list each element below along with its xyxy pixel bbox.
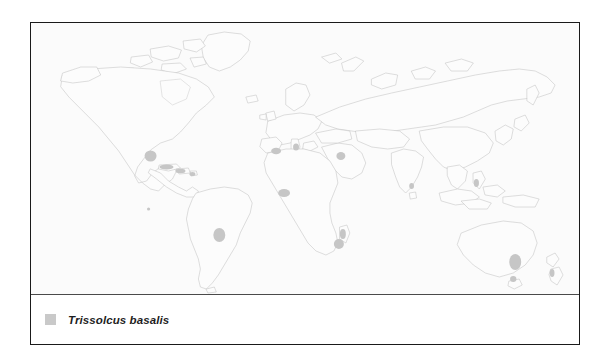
marker-madagascar — [340, 229, 346, 239]
legend-species-label: Trissolcus basalis — [68, 314, 169, 326]
marker-southern-india — [409, 183, 414, 189]
marker-western-mediterranean — [271, 148, 281, 154]
marker-southern-africa — [334, 239, 344, 249]
marker-italy — [293, 144, 299, 151]
marker-cuba — [160, 165, 174, 170]
distribution-map-figure: Trissolcus basalis — [30, 22, 580, 345]
marker-hawaii — [147, 207, 150, 210]
marker-southern-brazil — [213, 228, 225, 242]
world-map-graphic — [31, 23, 579, 295]
marker-lesser-antilles — [189, 172, 195, 176]
marker-hispaniola — [175, 169, 185, 173]
map-panel — [31, 23, 579, 295]
map-legend: Trissolcus basalis — [31, 294, 579, 344]
marker-egypt — [336, 152, 345, 160]
coastlines — [61, 32, 563, 293]
distribution-swatch — [45, 314, 56, 325]
marker-new-zealand — [550, 269, 555, 277]
marker-tasmania — [510, 276, 516, 282]
marker-southeastern-australia — [509, 254, 521, 270]
marker-philippines — [474, 179, 479, 187]
marker-west-africa — [278, 189, 290, 197]
marker-southern-us-mexico — [145, 151, 157, 162]
